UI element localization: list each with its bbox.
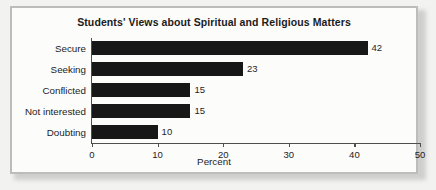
scanned-page: Students' Views about Spiritual and Reli… [0,0,436,190]
bar-row: 23 [92,59,420,80]
bar [92,41,368,55]
bar [92,62,243,76]
category-axis-labels: SecureSeekingConflictedNot interestedDou… [12,38,86,143]
bar-value-label: 15 [194,104,205,118]
category-label: Not interested [25,101,86,122]
x-tick-mark [92,143,93,147]
x-axis-title: Percent [12,156,416,167]
bar-value-label: 23 [247,62,258,76]
x-tick-mark [354,143,355,147]
figure-frame: Students' Views about Spiritual and Reli… [10,6,418,174]
bar [92,104,190,118]
x-tick-mark [289,143,290,147]
bar [92,83,190,97]
bar-value-label: 15 [194,83,205,97]
category-label: Conflicted [42,80,86,101]
x-tick-mark [420,143,421,147]
plot-area: SecureSeekingConflictedNot interestedDou… [92,38,420,143]
bar-row: 10 [92,122,420,143]
bar [92,125,158,139]
bar-value-label: 10 [162,125,173,139]
category-label: Seeking [51,59,86,80]
x-tick-label: 50 [415,149,426,160]
x-tick-mark [158,143,159,147]
category-label: Secure [55,38,86,59]
chart-title: Students' Views about Spiritual and Reli… [12,16,416,28]
x-axis-line [91,143,420,144]
bar-value-label: 42 [372,41,383,55]
category-label: Doubting [47,122,86,143]
bar-row: 42 [92,38,420,59]
bar-row: 15 [92,101,420,122]
x-tick-mark [223,143,224,147]
figure-inner-canvas: Students' Views about Spiritual and Reli… [12,8,416,172]
bar-row: 15 [92,80,420,101]
